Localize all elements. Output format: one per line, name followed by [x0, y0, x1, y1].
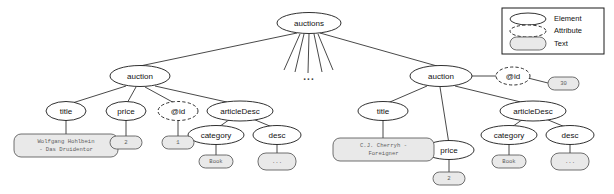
- text-node-left-title-value[interactable]: Wolfgang Hohlbein - Das Druidentor: [14, 134, 118, 157]
- left-auction-label: auction: [127, 72, 153, 81]
- legend-text-roundrect-icon: [510, 37, 546, 50]
- left-desc-label: desc: [269, 131, 286, 140]
- left-id-label: @id: [171, 107, 185, 116]
- node-right-auction[interactable]: auction: [410, 66, 472, 87]
- left-title-label: title: [60, 107, 73, 116]
- node-left-desc[interactable]: desc: [253, 126, 301, 145]
- auctions-label: auctions: [294, 19, 324, 28]
- right-id-label: @id: [506, 72, 520, 81]
- node-left-price[interactable]: price: [106, 102, 146, 121]
- legend-attribute-label: Attribute: [554, 26, 582, 35]
- edge-root-fan-3: [308, 34, 309, 73]
- right-title-text-line1: C.J. Cherryh -: [360, 142, 407, 149]
- node-right-desc[interactable]: desc: [546, 126, 594, 145]
- right-category-label: category: [494, 131, 525, 140]
- right-price-label: price: [440, 146, 458, 155]
- edge-root-fan-2: [295, 34, 304, 72]
- text-node-right-desc-value[interactable]: ...: [551, 153, 589, 170]
- right-auction-label: auction: [428, 72, 454, 81]
- left-title-text-line1: Wolfgang Hohlbein: [37, 138, 94, 145]
- right-title-text-line2: Foreigner: [368, 150, 398, 157]
- node-right-id-attribute[interactable]: @id: [496, 67, 530, 85]
- diagram-canvas: auctions ... auction title price @id art…: [0, 0, 614, 194]
- right-desc-label: desc: [562, 131, 579, 140]
- legend-element-label: Element: [554, 14, 582, 23]
- text-node-left-desc-value[interactable]: ...: [258, 153, 296, 170]
- node-auctions-root[interactable]: auctions: [277, 13, 341, 34]
- edge-root-to-right-auction: [320, 33, 437, 66]
- node-right-category[interactable]: category: [481, 126, 537, 145]
- text-node-left-id-value[interactable]: 1: [162, 136, 194, 149]
- node-left-auction[interactable]: auction: [110, 66, 170, 87]
- left-category-label: category: [201, 131, 232, 140]
- node-left-articledesc[interactable]: articleDesc: [207, 101, 273, 121]
- left-articledesc-label: articleDesc: [220, 107, 260, 116]
- xml-tree-svg: auctions ... auction title price @id art…: [0, 0, 614, 194]
- legend-attribute-ellipse-dashed-icon: [510, 25, 546, 37]
- ellipsis-marker: ...: [303, 71, 314, 82]
- text-node-right-title-value[interactable]: C.J. Cherryh - Foreigner: [333, 138, 434, 161]
- edges-layer: [66, 33, 570, 172]
- node-left-id-attribute[interactable]: @id: [158, 102, 198, 121]
- left-price-text: 2: [124, 139, 127, 146]
- left-desc-text: ...: [272, 158, 282, 165]
- right-title-label: title: [377, 107, 390, 116]
- left-title-text-line2: - Das Druidentor: [39, 146, 93, 153]
- left-category-text: Book: [209, 158, 223, 165]
- edge-root-fan-1: [284, 34, 300, 70]
- right-articledesc-label: articleDesc: [513, 107, 553, 116]
- text-node-left-price-value[interactable]: 2: [110, 136, 142, 149]
- text-node-right-category-value[interactable]: Book: [492, 155, 526, 168]
- right-category-text: Book: [502, 158, 516, 165]
- node-left-category[interactable]: category: [188, 126, 244, 145]
- edge-right-id-to-text: [528, 78, 548, 83]
- legend-element-ellipse-icon: [510, 13, 546, 25]
- node-right-articledesc[interactable]: articleDesc: [500, 101, 566, 121]
- text-node-left-category-value[interactable]: Book: [199, 155, 233, 168]
- edge-root-to-left-auction: [140, 33, 297, 66]
- text-node-right-id-value[interactable]: 30: [548, 77, 579, 90]
- right-desc-text: ...: [565, 158, 575, 165]
- edge-right-auction-to-price: [440, 87, 449, 144]
- legend: Element Attribute Text: [502, 8, 604, 54]
- right-id-text: 30: [560, 80, 567, 87]
- text-node-right-price-value[interactable]: 2: [433, 172, 465, 185]
- legend-text-label: Text: [554, 39, 569, 48]
- node-left-title[interactable]: title: [46, 102, 86, 121]
- left-price-label: price: [117, 107, 135, 116]
- right-price-text: 2: [447, 175, 450, 182]
- node-right-title[interactable]: title: [358, 102, 408, 121]
